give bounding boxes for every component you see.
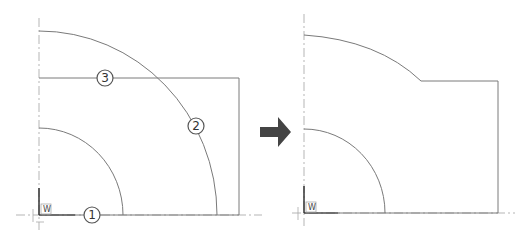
- ucs-icon: W: [33, 188, 75, 222]
- trimmed-outer-arc: [304, 35, 421, 81]
- callout-2: 2: [188, 118, 204, 134]
- diagram-canvas: W 1 2 3: [0, 0, 531, 238]
- inner-arc: [39, 128, 123, 215]
- inner-arc: [304, 129, 385, 213]
- after-panel: W: [292, 14, 515, 226]
- right-arrow-icon: [260, 117, 291, 147]
- svg-text:1: 1: [88, 208, 96, 222]
- svg-text:3: 3: [101, 71, 109, 85]
- ucs-label: W: [43, 205, 51, 214]
- callout-3: 3: [97, 70, 113, 86]
- ucs-label: W: [308, 203, 316, 212]
- callout-1: 1: [84, 207, 100, 223]
- before-panel: W 1 2 3: [16, 18, 262, 230]
- svg-text:2: 2: [192, 119, 200, 133]
